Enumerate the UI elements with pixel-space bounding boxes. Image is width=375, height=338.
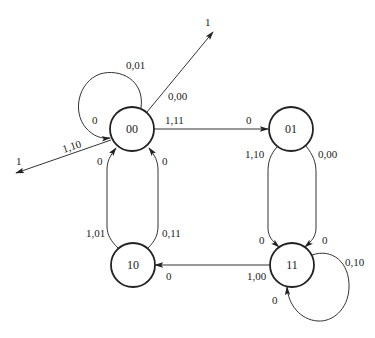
state-01: 01 xyxy=(269,107,313,151)
edge-01-to-11-left-target-label: 0 xyxy=(259,234,265,246)
state-10-label: 10 xyxy=(127,258,139,272)
edge-00-external-left-target-label: 1 xyxy=(16,155,22,167)
edge-10-to-00-right-io-label: 0,11 xyxy=(162,227,181,239)
edge-00-external-up-io-label: 0,00 xyxy=(168,90,188,102)
edge-11-to-10-io-label: 1,00 xyxy=(247,270,267,282)
edge-01-to-11-left xyxy=(268,147,279,247)
state-11-label: 11 xyxy=(286,258,298,272)
edge-00-external-up-target-label: 1 xyxy=(205,16,211,28)
state-diagram: 0,01 0 0,00 1 1,10 1 1,11 0 1,10 0 0,00 … xyxy=(0,0,375,338)
edge-01-to-11-right-target-label: 0 xyxy=(322,234,328,246)
edge-00-self-loop-target-label: 0 xyxy=(92,114,98,126)
state-00: 00 xyxy=(110,107,154,151)
edge-10-to-00-right-target-label: 0 xyxy=(162,155,168,167)
edge-10-to-00-left xyxy=(107,148,118,248)
edge-11-self-loop-io-label: 0,10 xyxy=(345,256,365,268)
state-01-label: 01 xyxy=(285,122,297,136)
edge-01-to-11-right-io-label: 0,00 xyxy=(318,148,338,160)
state-10: 10 xyxy=(111,243,155,287)
edge-00-external-left-io-label: 1,10 xyxy=(61,137,83,155)
edge-01-to-11-right xyxy=(305,146,316,247)
edge-10-to-00-left-target-label: 0 xyxy=(97,155,103,167)
edge-00-to-01-io-label: 1,11 xyxy=(165,114,184,126)
edge-10-to-00-left-io-label: 1,01 xyxy=(86,227,105,239)
state-00-label: 00 xyxy=(126,122,138,136)
edge-00-self-loop-io-label: 0,01 xyxy=(126,59,145,71)
edge-01-to-11-left-io-label: 1,10 xyxy=(245,148,265,160)
edge-10-to-00-right xyxy=(148,148,158,248)
edge-11-self-loop-target-label: 0 xyxy=(272,294,278,306)
state-11: 11 xyxy=(270,243,314,287)
edge-11-to-10-target-label: 0 xyxy=(166,270,172,282)
edge-00-to-01-target-label: 0 xyxy=(246,114,252,126)
